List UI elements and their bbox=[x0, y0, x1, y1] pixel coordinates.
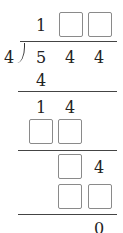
quotient-digit-1: 1 bbox=[34, 18, 48, 34]
remainder-2-digit-2: 4 bbox=[92, 160, 106, 176]
dividend-digit-1: 5 bbox=[34, 50, 48, 66]
subtraction-line-1 bbox=[18, 91, 117, 92]
subtract-3-blank-1[interactable] bbox=[58, 184, 82, 209]
division-bracket bbox=[17, 43, 25, 63]
quotient-blank-2[interactable] bbox=[59, 12, 83, 37]
dividend-digit-3: 4 bbox=[92, 50, 106, 66]
subtract-2-blank-1[interactable] bbox=[29, 119, 53, 144]
subtract-1-digit: 4 bbox=[34, 73, 48, 89]
divisor: 4 bbox=[2, 50, 16, 66]
quotient-blank-3[interactable] bbox=[88, 12, 112, 37]
remainder-1-digit-1: 1 bbox=[34, 100, 48, 116]
subtract-2-blank-2[interactable] bbox=[58, 119, 82, 144]
subtract-3-blank-2[interactable] bbox=[88, 184, 112, 209]
subtraction-line-3 bbox=[18, 214, 117, 215]
remainder-1-digit-2: 4 bbox=[63, 100, 77, 116]
remainder-2-blank-1[interactable] bbox=[58, 154, 82, 179]
subtraction-line-2 bbox=[18, 150, 117, 151]
final-remainder: 0 bbox=[92, 221, 106, 233]
division-bar bbox=[20, 41, 117, 42]
dividend-digit-2: 4 bbox=[63, 50, 77, 66]
